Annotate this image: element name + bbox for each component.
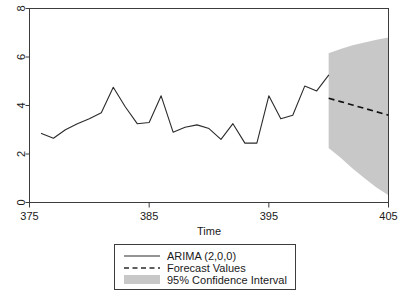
y-tick-label: 6 (15, 54, 27, 60)
x-tick-label: 405 (379, 210, 397, 222)
chart-canvas: 02468 375385395405 Time ARIMA (2,0,0) Fo… (0, 0, 404, 297)
legend-label-confidence-interval: 95% Confidence Interval (167, 274, 287, 286)
confidence-interval-band (329, 38, 389, 196)
series-line-arima (41, 75, 328, 143)
legend-label-arima: ARIMA (2,0,0) (167, 250, 236, 262)
x-tick-label: 385 (140, 210, 158, 222)
y-tick-label: 2 (15, 151, 27, 157)
x-axis-ticks: 375385395405 (20, 203, 397, 222)
y-tick-label: 4 (15, 102, 27, 108)
x-tick-label: 375 (20, 210, 38, 222)
x-axis-title: Time (197, 225, 221, 237)
y-tick-label: 0 (15, 199, 27, 205)
x-tick-label: 395 (260, 210, 278, 222)
y-axis-ticks: 02468 (15, 5, 30, 205)
legend-label-forecast: Forecast Values (167, 262, 246, 274)
arima-forecast-chart: 02468 375385395405 Time ARIMA (2,0,0) Fo… (0, 0, 404, 297)
legend-band-swatch-icon (124, 275, 160, 284)
y-tick-label: 8 (15, 5, 27, 11)
chart-legend: ARIMA (2,0,0) Forecast Values 95% Confid… (115, 245, 296, 290)
